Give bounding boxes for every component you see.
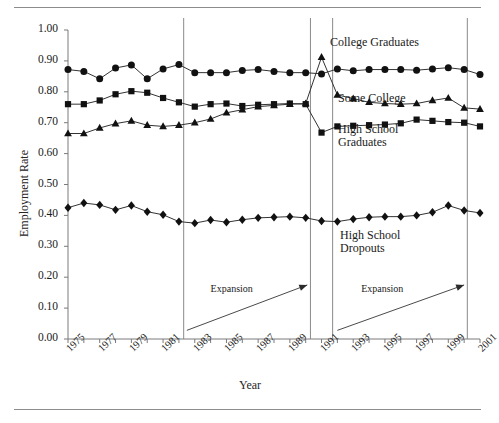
data-point xyxy=(255,102,261,108)
data-point xyxy=(255,214,262,222)
data-point xyxy=(366,213,373,221)
data-point xyxy=(97,97,103,103)
series-label-line: Dropouts xyxy=(340,242,400,255)
y-tick-label: 1.00 xyxy=(24,22,58,34)
data-point xyxy=(286,69,293,76)
y-tick-label: 0.00 xyxy=(24,331,58,343)
data-point xyxy=(65,101,71,107)
data-point xyxy=(397,212,404,220)
series-label-college-graduates: College Graduates xyxy=(330,36,419,49)
data-series-group xyxy=(64,53,484,227)
y-tick-label: 0.80 xyxy=(24,84,58,96)
data-point xyxy=(144,90,150,96)
data-point xyxy=(207,69,214,76)
data-point xyxy=(176,99,182,105)
data-point xyxy=(64,129,72,136)
data-point xyxy=(223,69,230,76)
data-point xyxy=(461,66,468,73)
data-point xyxy=(65,66,72,73)
data-point xyxy=(477,123,483,129)
data-point xyxy=(127,117,135,124)
data-point xyxy=(398,120,404,126)
data-point xyxy=(429,208,436,216)
y-tick-label: 0.50 xyxy=(24,177,58,189)
data-point xyxy=(477,209,484,217)
data-point xyxy=(96,75,103,82)
series-diamond xyxy=(65,199,484,227)
data-point xyxy=(397,66,404,73)
data-point xyxy=(144,75,151,82)
data-point xyxy=(318,70,325,77)
y-tick-label: 0.30 xyxy=(24,238,58,250)
data-point xyxy=(65,203,72,211)
data-point xyxy=(81,101,87,107)
data-point xyxy=(80,68,87,75)
y-tick-label: 0.10 xyxy=(24,300,58,312)
series-line xyxy=(68,91,480,132)
data-point xyxy=(413,67,420,74)
data-point xyxy=(287,100,293,106)
data-point xyxy=(128,88,134,94)
expansion-annotation-label: Expansion xyxy=(361,283,403,294)
series-label-high-school-dropouts: High SchoolDropouts xyxy=(340,229,400,256)
data-point xyxy=(128,61,135,68)
expansion-annotation-label: Expansion xyxy=(211,283,253,294)
data-point xyxy=(461,120,467,126)
y-tick-label: 0.60 xyxy=(24,146,58,158)
series-label-line: High School xyxy=(338,123,398,136)
data-point xyxy=(444,94,452,101)
data-point xyxy=(160,211,167,219)
data-point xyxy=(144,207,151,215)
data-point xyxy=(413,211,420,219)
data-point xyxy=(192,104,198,110)
expansion-arrow-head xyxy=(299,285,308,291)
data-point xyxy=(271,101,277,107)
data-point xyxy=(223,218,230,226)
data-point xyxy=(191,69,198,76)
data-point xyxy=(191,219,198,227)
data-point xyxy=(350,215,357,223)
series-square xyxy=(65,88,483,136)
data-point xyxy=(302,69,309,76)
data-point xyxy=(477,71,484,78)
data-point xyxy=(239,216,246,224)
data-point xyxy=(366,66,373,73)
data-point xyxy=(303,101,309,107)
data-point xyxy=(239,67,246,74)
y-tick-label: 0.40 xyxy=(24,207,58,219)
data-point xyxy=(80,199,87,207)
data-point xyxy=(429,118,435,124)
data-point xyxy=(160,65,167,72)
data-point xyxy=(96,201,103,209)
data-point xyxy=(239,103,245,109)
data-point xyxy=(381,212,388,220)
expansion-arrow-head xyxy=(456,285,465,291)
y-tick-label: 0.20 xyxy=(24,269,58,281)
data-point xyxy=(175,217,182,225)
data-point xyxy=(429,65,436,72)
data-point xyxy=(318,129,324,135)
series-label-high-school-graduates: High SchoolGraduates xyxy=(338,123,398,150)
data-point xyxy=(445,201,452,209)
data-point xyxy=(302,214,309,222)
data-point xyxy=(207,216,214,224)
series-circle xyxy=(65,61,484,82)
data-point xyxy=(175,61,182,68)
series-label-line: Graduates xyxy=(338,136,398,149)
data-point xyxy=(112,206,119,214)
data-point xyxy=(318,53,326,60)
data-point xyxy=(271,68,278,75)
data-point xyxy=(208,101,214,107)
data-point xyxy=(445,64,452,71)
data-point xyxy=(271,213,278,221)
data-point xyxy=(160,95,166,101)
series-label-line: High School xyxy=(340,229,400,242)
data-point xyxy=(318,217,325,225)
axes-group xyxy=(64,30,480,343)
data-point xyxy=(334,217,341,225)
series-label-some-college: Some College xyxy=(338,92,406,105)
data-point xyxy=(286,212,293,220)
data-point xyxy=(128,201,135,209)
